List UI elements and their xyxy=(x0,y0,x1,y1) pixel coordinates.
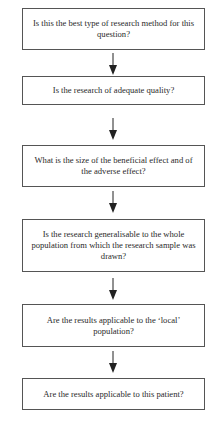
step-6-box: Are the results applicable to this patie… xyxy=(22,378,205,410)
arrow-down-icon xyxy=(108,53,118,75)
step-2-text: Is the research of adequate quality? xyxy=(53,85,174,96)
step-4-text: Is the research generalisable to the who… xyxy=(31,229,196,262)
step-1-text: Is this the best type of research method… xyxy=(31,18,196,40)
step-6-text: Are the results applicable to this patie… xyxy=(43,389,183,400)
step-5-box: Are the results applicable to the ‘local… xyxy=(22,304,205,347)
arrow-down-icon xyxy=(108,351,118,373)
step-2-box: Is the research of adequate quality? xyxy=(22,76,205,105)
arrow-down-icon xyxy=(108,118,118,140)
step-3-text: What is the size of the beneficial effec… xyxy=(31,155,196,177)
arrow-down-icon xyxy=(108,191,118,213)
step-4-box: Is the research generalisable to the who… xyxy=(22,219,205,272)
step-1-box: Is this the best type of research method… xyxy=(22,8,205,50)
step-3-box: What is the size of the beneficial effec… xyxy=(22,145,205,187)
step-5-text: Are the results applicable to the ‘local… xyxy=(31,315,196,337)
arrow-down-icon xyxy=(108,278,118,300)
